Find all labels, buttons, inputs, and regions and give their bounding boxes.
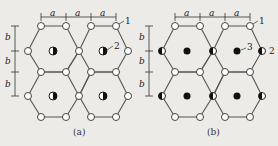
- dimension-b: [145, 26, 153, 96]
- center-nodes-half-filled: [49, 47, 107, 100]
- callout-1: 1: [125, 17, 131, 26]
- panel-a: [11, 13, 132, 121]
- hexagonal-lattice-diagram: [0, 0, 278, 146]
- dim-label-a-2: a: [209, 9, 214, 18]
- center-nodes-solid: [184, 48, 241, 100]
- panel-b: [145, 13, 266, 121]
- dim-label-a-1: a: [184, 9, 189, 18]
- dim-label-a-1: a: [50, 9, 55, 18]
- dimension-b: [11, 26, 19, 96]
- panel-a-caption: (a): [73, 128, 85, 137]
- panel-b-caption: (b): [207, 128, 220, 137]
- leader-3b: [241, 48, 246, 50]
- dim-label-b-2: b: [5, 57, 11, 66]
- dim-label-b-3: b: [5, 80, 11, 89]
- corner-nodes: [25, 23, 132, 121]
- dim-label-b-3: b: [139, 80, 145, 89]
- dim-label-b-2: b: [139, 57, 145, 66]
- leader-1b: [253, 21, 258, 24]
- callout-3: 3: [247, 43, 253, 52]
- dim-label-b-1: b: [139, 33, 145, 42]
- dim-label-a-2: a: [75, 9, 80, 18]
- dim-label-b-1: b: [5, 33, 11, 42]
- dim-label-a-3: a: [234, 9, 239, 18]
- callout-2: 2: [269, 47, 275, 56]
- leader-1a: [119, 21, 124, 24]
- dim-label-a-3: a: [100, 9, 105, 18]
- leader-2a: [107, 46, 113, 50]
- callout-1: 1: [259, 17, 265, 26]
- callout-2: 2: [114, 42, 120, 51]
